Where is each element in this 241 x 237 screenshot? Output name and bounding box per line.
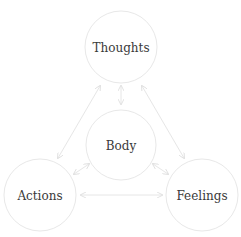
edge-thoughts-actions [58, 86, 100, 158]
actions-label: Actions [17, 189, 62, 203]
edge-thoughts-feelings [142, 86, 184, 158]
body-label: Body [106, 139, 137, 153]
thoughts-label: Thoughts [92, 41, 149, 55]
feelings-label: Feelings [176, 189, 227, 203]
cbt-diagram: Thoughts Body Actions Feelings [0, 0, 241, 237]
edge-body-actions [74, 164, 89, 174]
edge-body-feelings [153, 164, 168, 174]
